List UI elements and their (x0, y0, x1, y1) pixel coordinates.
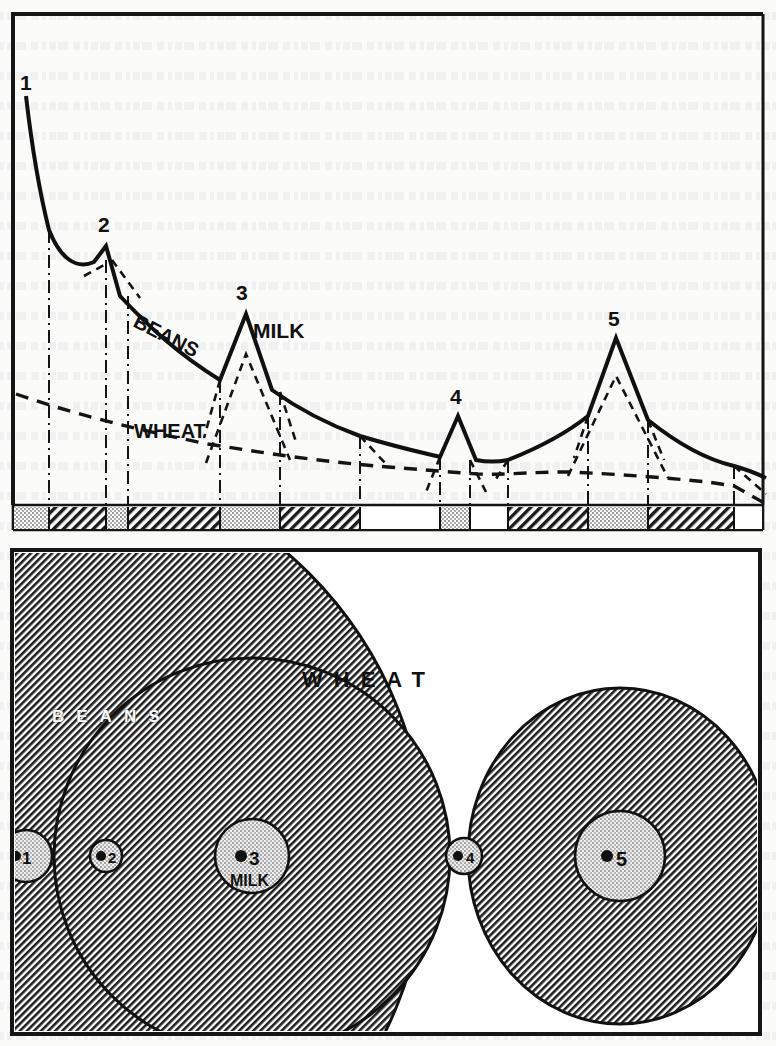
land-use-map-svg: 1 2 3 4 5 MILK WHEAT BEANS (8, 546, 768, 1038)
beans-region-label: BEANS (52, 707, 172, 726)
peak-label-1: 1 (20, 71, 32, 94)
market-label-3: 3 (249, 848, 260, 869)
wheat-region-label: WHEAT (302, 667, 436, 692)
strip-segment-milk (220, 507, 280, 529)
peak-label-4: 4 (450, 385, 462, 408)
market-label-5: 5 (616, 848, 627, 870)
strip-segment-beans (49, 507, 106, 529)
boundary-verticals (49, 230, 734, 505)
strip-segment-milk (14, 507, 49, 529)
strip-segment-beans (280, 507, 360, 529)
milk-zone-caption: MILK (230, 872, 270, 889)
beans-curve-label: BEANS (130, 310, 202, 361)
rent-profile-svg: 1 2 3 4 5 BEANS MILK WHEAT (8, 8, 768, 534)
milk-zone-market-4 (446, 838, 482, 874)
strip-segment-beans (648, 507, 734, 529)
peak-label-5: 5 (608, 307, 620, 330)
strip-segment-milk (588, 507, 648, 529)
strip-segment-wheat (360, 507, 440, 529)
peak-label-3: 3 (236, 281, 248, 304)
panel-frame (13, 14, 763, 530)
wheat-curve-label: WHEAT (134, 420, 206, 442)
strip-segment-wheat (470, 507, 508, 529)
strip-segment-milk (106, 507, 128, 529)
land-use-map-panel: 1 2 3 4 5 MILK WHEAT BEANS (8, 546, 768, 1038)
land-use-strip (14, 507, 762, 529)
rent-profile-panel: 1 2 3 4 5 BEANS MILK WHEAT (8, 8, 768, 534)
strip-segment-wheat (734, 507, 762, 529)
market-label-2: 2 (108, 849, 116, 866)
milk-curve-label: MILK (253, 319, 304, 342)
peak-label-2: 2 (98, 213, 110, 236)
strip-segment-milk (440, 507, 470, 529)
market-label-1: 1 (22, 849, 31, 868)
milk-rent-cones (84, 260, 766, 494)
strip-segment-beans (508, 507, 588, 529)
peak-labels: 1 2 3 4 5 (20, 71, 620, 408)
strip-segment-beans (128, 507, 220, 529)
market-label-4: 4 (466, 849, 475, 866)
